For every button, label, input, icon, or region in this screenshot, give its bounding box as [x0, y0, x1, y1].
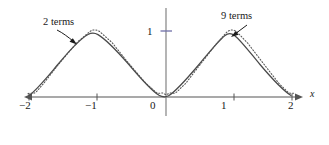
x-tick-label-zero: 0: [150, 100, 156, 111]
y-tick-label-one: 1: [147, 26, 153, 37]
fourier-series-figure: −2 −1 0 1 2 1 x 2 terms 9 terms: [0, 0, 329, 145]
x-tick-label-neg1: −1: [85, 100, 97, 111]
annotation-arrow-2-terms: [57, 30, 73, 41]
curve-2-terms-solid: [29, 33, 291, 97]
x-tick-label-two: 2: [288, 100, 294, 111]
curve-9-terms-dotted: [28, 30, 295, 95]
x-axis-label: x: [310, 89, 314, 99]
x-tick-label-one: 1: [221, 100, 227, 111]
x-axis-right-arrowhead: [295, 94, 303, 101]
annotation-label-9-terms: 9 terms: [221, 11, 252, 22]
annotation-label-2-terms: 2 terms: [43, 17, 74, 28]
x-tick-label-neg2: −2: [19, 100, 31, 111]
